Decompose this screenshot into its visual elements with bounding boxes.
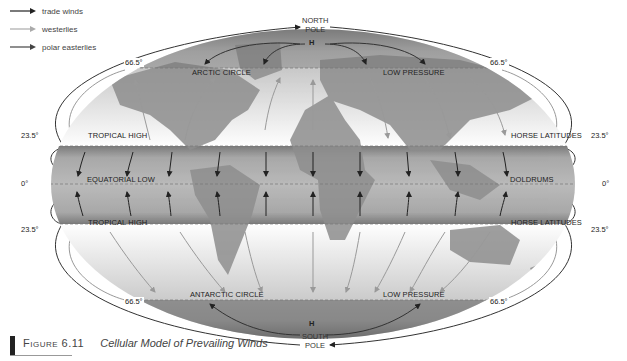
south-pole-line2: POLE: [302, 341, 328, 350]
north-pole-label: NORTH POLE: [302, 16, 329, 34]
lat-23-north-left: 23.5°: [20, 131, 40, 140]
lat-23-north-right: 23.5°: [590, 131, 610, 140]
polar-easterlies-arrow-icon: [10, 44, 36, 50]
north-pole-line2: POLE: [302, 25, 329, 34]
caption-underline: [10, 355, 72, 356]
south-pole-high: H: [309, 319, 315, 328]
westerlies-arrow-icon: [10, 26, 36, 32]
figure-title: Cellular Model of Prevailing Winds: [100, 337, 267, 349]
trade-winds-arrow-icon: [10, 8, 36, 14]
tropical-high-south-label: TROPICAL HIGH: [88, 218, 147, 227]
tropical-high-north-label: TROPICAL HIGH: [88, 131, 147, 140]
legend-label: trade winds: [42, 7, 83, 16]
lat-66-south-right: 66.5°: [489, 297, 509, 306]
lat-66-north-right: 66.5°: [489, 58, 509, 67]
low-pressure-north-label: LOW PRESSURE: [383, 68, 445, 77]
horse-latitudes-north-label: HORSE LATITUDES: [511, 131, 582, 140]
legend-label: westerlies: [42, 25, 78, 34]
low-pressure-south-label: LOW PRESSURE: [383, 290, 445, 299]
horse-latitudes-south-label: HORSE LATITUDES: [511, 218, 582, 227]
lat-equator-left: 0°: [20, 179, 29, 188]
south-pole-label: SOUTH POLE: [302, 332, 328, 350]
lat-23-south-right: 23.5°: [590, 225, 610, 234]
lat-equator-right: 0°: [601, 179, 610, 188]
legend-item-trade-winds: trade winds: [10, 2, 96, 20]
caption-bar: [10, 336, 15, 356]
legend-item-polar-easterlies: polar easterlies: [10, 38, 96, 56]
equatorial-low-label: EQUATORIAL LOW: [87, 175, 155, 184]
arctic-circle-label: ARCTIC CIRCLE: [192, 68, 251, 77]
lat-66-south-left: 66.5°: [124, 297, 144, 306]
doldrums-label: DOLDRUMS: [510, 175, 554, 184]
legend-item-westerlies: westerlies: [10, 20, 96, 38]
legend: trade winds westerlies polar easterlies: [10, 2, 96, 56]
legend-label: polar easterlies: [42, 43, 96, 52]
north-pole-high: H: [309, 38, 315, 47]
north-pole-line1: NORTH: [302, 16, 329, 25]
figure-caption: Figure 6.11 Cellular Model of Prevailing…: [10, 330, 268, 356]
lat-66-north-left: 66.5°: [124, 58, 144, 67]
lat-23-south-left: 23.5°: [20, 225, 40, 234]
antarctic-circle-label: ANTARCTIC CIRCLE: [190, 290, 264, 299]
south-pole-line1: SOUTH: [302, 332, 328, 341]
figure-number: Figure 6.11: [23, 337, 84, 349]
